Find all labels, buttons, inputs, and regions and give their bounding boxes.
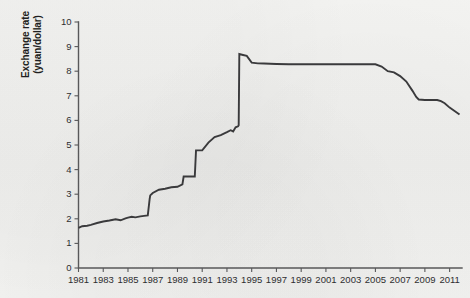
y-tick-label: 3	[66, 188, 71, 199]
y-tick-label: 9	[66, 41, 71, 52]
y-tick-label: 1	[66, 237, 71, 248]
y-tick-label: 10	[61, 16, 72, 27]
x-tick-label: 1985	[117, 274, 138, 285]
y-tick-label: 0	[66, 262, 71, 273]
chart-figure: Exchange rate (yuan/dollar) 012345678910…	[0, 0, 470, 298]
y-tick-label: 2	[66, 213, 71, 224]
x-tick-label: 1981	[68, 274, 89, 285]
x-tick-label: 2009	[414, 274, 435, 285]
exchange-rate-line	[79, 54, 460, 228]
x-tick-label: 1995	[241, 274, 262, 285]
y-tick-label: 7	[66, 90, 71, 101]
line-chart-plot: 012345678910 198119831985198719891991199…	[0, 0, 470, 298]
y-tick-label: 8	[66, 65, 71, 76]
y-tick-label: 6	[66, 114, 71, 125]
x-axis-ticks: 1981198319851987198919911993199519971999…	[68, 268, 460, 285]
x-tick-label: 2007	[390, 274, 411, 285]
x-tick-label: 1989	[167, 274, 188, 285]
x-tick-label: 2005	[365, 274, 386, 285]
x-tick-label: 2001	[315, 274, 336, 285]
y-axis-ticks: 012345678910	[61, 16, 79, 273]
x-tick-label: 2003	[340, 274, 361, 285]
x-tick-label: 1997	[266, 274, 287, 285]
axis-lines	[79, 22, 463, 268]
x-tick-label: 2011	[439, 274, 459, 285]
y-tick-label: 5	[66, 139, 71, 150]
x-tick-label: 1999	[291, 274, 312, 285]
y-tick-label: 4	[66, 164, 71, 175]
x-tick-label: 1993	[216, 274, 237, 285]
x-tick-label: 1991	[192, 274, 213, 285]
x-tick-label: 1983	[93, 274, 114, 285]
x-tick-label: 1987	[142, 274, 163, 285]
